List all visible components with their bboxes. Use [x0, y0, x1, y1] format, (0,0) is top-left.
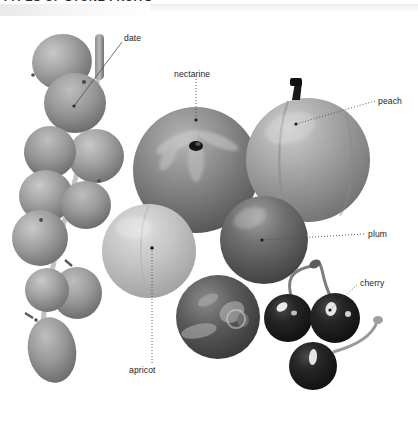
label-apricot: apricot — [129, 365, 156, 375]
label-nectarine: nectarine — [174, 69, 210, 79]
stone-fruits-illustration — [0, 0, 418, 421]
figure-canvas: TYPES OF STONE FRUITS — [0, 0, 418, 421]
label-peach: peach — [378, 96, 402, 106]
fruit-date-cluster — [9, 28, 124, 386]
label-date: date — [124, 33, 141, 43]
fruit-apricot — [102, 204, 196, 298]
fruit-plum-mottled — [176, 275, 260, 359]
label-plum: plum — [368, 229, 387, 239]
label-cherry: cherry — [360, 278, 384, 288]
fruit-plum-round — [220, 196, 308, 284]
